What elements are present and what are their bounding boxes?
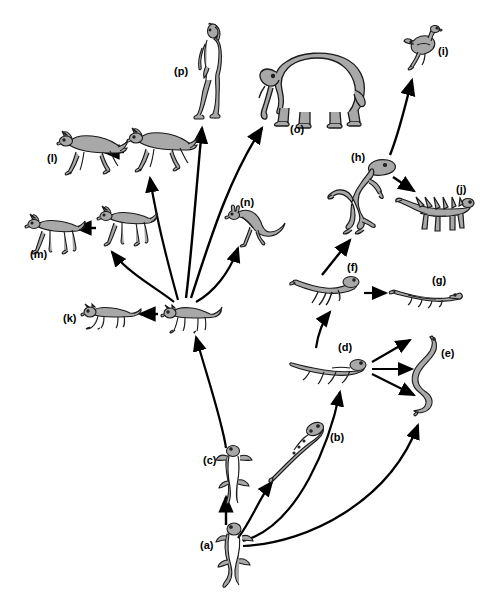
organism-horse-intermediate-galloping xyxy=(126,128,198,172)
organism-snake xyxy=(404,334,442,416)
organism-early-reptile xyxy=(288,352,366,386)
organism-bird xyxy=(403,25,443,71)
organism-human xyxy=(193,22,223,120)
node-label-l: (l) xyxy=(47,153,57,164)
line-hub-to-horse-lower xyxy=(112,252,174,302)
organism-kangaroo xyxy=(224,203,286,247)
node-label-d: (d) xyxy=(338,342,352,353)
line-h-to-i xyxy=(390,80,412,155)
line-c-to-hub xyxy=(196,337,226,448)
organism-crocodile xyxy=(388,286,464,308)
node-label-k: (k) xyxy=(63,313,76,324)
line-d-to-f xyxy=(316,312,330,348)
node-label-c: (c) xyxy=(203,455,216,466)
line-hub-to-kangaroo xyxy=(196,248,238,302)
organism-salamander-ancestral xyxy=(215,520,255,590)
evolution-diagram-figure: (a) (b) (c) (d) (e) (f) (g) (h) (i) (j) … xyxy=(0,0,495,603)
organism-elephant xyxy=(256,46,368,128)
node-label-n: (n) xyxy=(240,197,254,208)
node-label-a: (a) xyxy=(200,540,213,551)
organism-ancestral-mammal xyxy=(160,303,222,333)
node-label-o: (o) xyxy=(290,124,304,135)
node-label-h: (h) xyxy=(351,152,365,163)
organism-aquatic-amphibian xyxy=(268,418,326,484)
node-label-m: (m) xyxy=(30,249,47,260)
organism-horse-intermediate-trotting xyxy=(96,205,158,247)
line-f-to-h xyxy=(322,240,350,275)
organism-terrestrial-salamander xyxy=(216,443,252,505)
node-label-f: (f) xyxy=(347,262,358,273)
node-label-p: (p) xyxy=(174,66,188,77)
node-label-b: (b) xyxy=(330,432,344,443)
organism-bipedal-reptile xyxy=(288,272,360,306)
node-label-j: (j) xyxy=(456,184,466,195)
node-label-e: (e) xyxy=(441,348,454,359)
node-label-i: (i) xyxy=(438,46,448,57)
organism-modern-horse xyxy=(56,131,128,175)
organism-carnivore-mammal xyxy=(80,303,142,329)
node-label-g: (g) xyxy=(432,275,446,286)
